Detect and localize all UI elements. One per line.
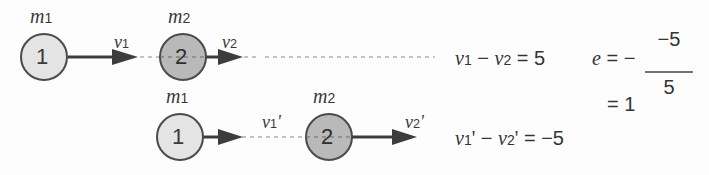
ball-1-number-after: 1 bbox=[172, 126, 184, 148]
mass-label-m2: m2 bbox=[168, 6, 190, 26]
velocity-label-v1: v1 bbox=[114, 33, 129, 51]
restitution-equation: e = − bbox=[592, 48, 635, 68]
diagram-graphics bbox=[0, 0, 709, 175]
mass-label-m1: m1 bbox=[30, 6, 52, 26]
ball-2-number-after: 2 bbox=[321, 126, 333, 148]
ball-2-number: 2 bbox=[175, 46, 187, 68]
velocity-arrow-v1 bbox=[68, 49, 138, 65]
collision-diagram: m1 1 v1 m2 2 v2 v1 − v2 = 5 e = − −5 5 =… bbox=[0, 0, 709, 175]
restitution-result: = 1 bbox=[607, 94, 635, 114]
velocity-arrow-v1-prime bbox=[203, 129, 243, 145]
mass-label-m2-after: m2 bbox=[313, 86, 335, 106]
relative-velocity-after: v1' − v2' = −5 bbox=[455, 128, 564, 148]
ball-1-number: 1 bbox=[36, 46, 48, 68]
velocity-label-v2-prime: v2' bbox=[405, 113, 424, 131]
relative-velocity-before: v1 − v2 = 5 bbox=[455, 48, 545, 68]
velocity-label-v2: v2 bbox=[222, 33, 237, 51]
fraction-denominator: 5 bbox=[645, 76, 693, 99]
fraction-numerator: −5 bbox=[645, 28, 693, 51]
mass-label-m1-after: m1 bbox=[166, 86, 188, 106]
velocity-label-v1-prime: v1' bbox=[262, 113, 281, 131]
